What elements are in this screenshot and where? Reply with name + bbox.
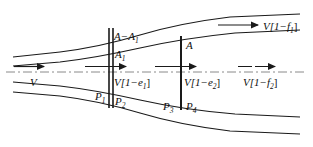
- label-velocity-f1: V[1−f1]: [263, 21, 297, 35]
- label-pressure-1: P1: [95, 91, 105, 105]
- streamline-lower-outer: [13, 92, 300, 134]
- label-area-inner: A1: [115, 49, 125, 63]
- flow-diagram: A−A1 A1 A V[1−f1] V V[1−e1] V[1−e2] V[1−…: [0, 0, 313, 147]
- label-velocity-e1: V[1−e1]: [114, 77, 150, 91]
- label-pressure-2: P2: [115, 96, 125, 110]
- label-pressure-4: P4: [186, 101, 196, 115]
- label-area-total: A: [186, 40, 193, 51]
- label-area-annulus: A−A1: [114, 31, 139, 45]
- streamline-upper-outer: [13, 14, 300, 57]
- streamline-upper-inner: [13, 30, 300, 66]
- label-velocity-e2: V[1−e2]: [184, 77, 220, 91]
- label-pressure-3: P3: [163, 101, 173, 115]
- label-velocity-inlet: V: [30, 77, 37, 88]
- label-velocity-f2: V[1−f2]: [243, 77, 277, 91]
